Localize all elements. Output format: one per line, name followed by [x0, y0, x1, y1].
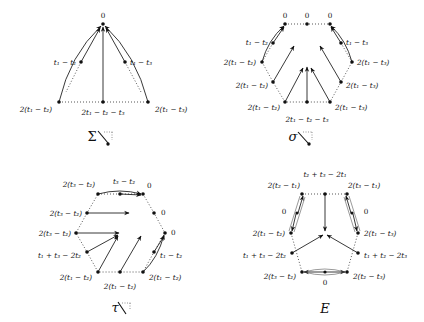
vertex-label: 2(t₃ − t₂) — [263, 272, 297, 281]
caption-E: E — [319, 301, 330, 316]
arrow — [285, 68, 303, 102]
arrow — [98, 236, 118, 272]
vertex-label: 2(t₂ − t₁) — [267, 181, 301, 190]
vertex-label: 2(t₁ − t₂) — [223, 58, 257, 67]
vertex-label: 0 — [171, 228, 176, 237]
vertex-label: t₁ − t₂ — [160, 251, 182, 260]
vertex-label: 2(t₁ − t₂) — [252, 229, 286, 238]
vertex-label: 2(t₁ − t₃) — [345, 81, 379, 90]
vertex-label: 2t₁ − t₂ − t₃ — [80, 108, 124, 117]
vertex-label: 0 — [323, 278, 328, 287]
panel-sigma: 0 t₁ − t₂ t₁ − t₃ 2(t₁ − t₂) 2t₁ − t₂ − … — [19, 11, 188, 146]
vertex — [123, 60, 127, 64]
vertex — [79, 60, 83, 64]
vertex — [101, 100, 105, 104]
vertex-label: t₁ − t₂ — [54, 58, 76, 67]
caption-symbol: Σ — [87, 129, 96, 144]
arrow — [273, 27, 284, 43]
vertex-label: 0 — [328, 11, 333, 20]
vertex-label: 2(t₁ − t₂) — [148, 273, 182, 282]
vertex-label: t₁ − t₃ — [346, 38, 368, 47]
vertex-label: t₁ − t₃ — [130, 58, 152, 67]
vertex-label: 2(t₁ − t₂) — [103, 282, 137, 291]
vertex-label: 2(t₁ − t₃) — [356, 58, 390, 67]
vertex — [57, 100, 61, 104]
vertex — [101, 22, 105, 26]
arrow — [320, 46, 341, 82]
vertex-label: 2(t₁ − t₂) — [59, 273, 93, 282]
vertex-label: t₃ − t₂ — [113, 177, 135, 186]
vertex-label: 2(t₁ − t₃) — [154, 105, 188, 114]
caption-tau-hook: τ — [111, 300, 131, 315]
vertex-label: 0 — [161, 208, 166, 217]
vertex-label: 2(t₁ − t₃) — [363, 229, 397, 238]
panel-E: t₂ + t₃ − 2t₁ 2(t₂ − t₁) 2(t₃ − t₁) 0 0 … — [243, 170, 407, 316]
vertex-label: 2(t₁ − t₂) — [235, 81, 269, 90]
vertex-label: 0 — [282, 207, 287, 216]
caption-sigma-small-hook: σ — [289, 129, 313, 146]
vertex-label: 2(t₁ − t₂) — [19, 105, 53, 114]
vertex-label: t₁ + t₃ − 2t₂ — [38, 251, 81, 260]
vertex-label: 0 — [305, 11, 310, 20]
vertex-label: 2(t₁ − t₃) — [334, 103, 368, 112]
vertex-label: t₂ + t₃ − 2t₁ — [303, 170, 346, 179]
vertex-label: 2(t₁ − t₂) — [247, 103, 281, 112]
vertex-label: 0 — [101, 11, 106, 20]
vertex-label: 0 — [364, 207, 369, 216]
arrow — [120, 236, 141, 272]
caption-sigma-hook: Σ — [87, 129, 114, 146]
panel-sigma-small: 0 0 0 t₁ − t₂ t₁ − t₃ 2(t₁ − t₂) 2(t₁ − … — [223, 11, 390, 146]
vertex-label: 0 — [283, 11, 288, 20]
arrow — [327, 235, 358, 253]
vertex-label: t₁ + t₃ − 2t₂ — [243, 251, 286, 260]
vertex-label: 2(t₃ − t₂) — [38, 229, 72, 238]
diagram-canvas: 0 t₁ − t₂ t₁ − t₃ 2(t₁ − t₂) 2t₁ − t₂ − … — [0, 0, 424, 322]
caption-symbol: σ — [289, 129, 299, 144]
vertex — [146, 100, 150, 104]
arrow — [292, 235, 323, 253]
arrow — [273, 46, 294, 82]
arrow — [311, 68, 330, 102]
vertex-label: 2t₁ − t₂ − t₃ — [284, 115, 328, 124]
vertex-label: 2(t₃ − t₁) — [347, 181, 381, 190]
vertex-label: 2(t₃ − t₂) — [62, 180, 96, 189]
vertex-label: 2(t₂ − t₃) — [352, 272, 386, 281]
vertex-label: t₁ + t₂ − 2t₃ — [364, 251, 407, 260]
vertex-label: 0 — [147, 181, 152, 190]
vertex-label: 2(t₃ − t₂) — [49, 209, 83, 218]
panel-tau: 2(t₃ − t₂) t₃ − t₂ 0 2(t₃ − t₂) 0 2(t₃ −… — [38, 177, 183, 315]
vertex-label: t₁ − t₂ — [246, 38, 268, 47]
